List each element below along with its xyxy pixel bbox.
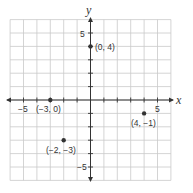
x-axis-arrow-left-icon — [6, 98, 11, 103]
point-0-4 — [88, 44, 92, 48]
y-tick-label-neg5: −5 — [77, 162, 87, 172]
point-label-neg2-neg3: (−2, −3) — [46, 145, 76, 155]
point-label-0-4: (0, 4) — [95, 42, 115, 52]
y-tick-label-5: 5 — [80, 29, 85, 39]
x-tick-label-neg5: −5 — [18, 104, 28, 114]
coordinate-plane: x y −5 5 5 −5 (0, 4) (−3, 0) (4, −1) (−2… — [0, 0, 193, 193]
point-neg3-0 — [48, 98, 52, 102]
y-axis-arrow-down-icon — [88, 177, 93, 182]
points: (0, 4) (−3, 0) (4, −1) (−2, −3) — [36, 42, 156, 156]
y-axis-label: y — [85, 3, 92, 17]
point-label-4-neg1: (4, −1) — [131, 118, 156, 128]
point-neg2-neg3 — [62, 138, 66, 142]
axes: x y — [6, 3, 182, 182]
point-label-neg3-0: (−3, 0) — [36, 104, 61, 114]
x-axis-label: x — [175, 93, 182, 107]
point-4-neg1 — [142, 111, 146, 115]
x-tick-label-5: 5 — [155, 104, 160, 114]
x-axis-arrow-right-icon — [169, 98, 174, 103]
